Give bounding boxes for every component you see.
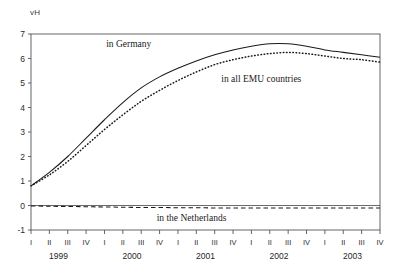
x-tick-label: II [121, 238, 125, 247]
x-axis-year-label: 2002 [270, 251, 289, 261]
x-tick-label: I [103, 238, 105, 247]
x-axis-year-label: 1999 [49, 251, 68, 261]
x-tick-label: III [285, 238, 291, 247]
x-tick-label: III [138, 238, 144, 247]
x-axis-year-group: 19992000200120022003 [49, 251, 362, 261]
y-tick-label: -1 [17, 225, 25, 235]
series-line-in-the-netherlands [31, 206, 380, 208]
x-axis-tick-group: IIIIIIIVIIIIIIIVIIIIIIIVIIIIIIIVIIIIIIIV [30, 230, 384, 247]
x-tick-label: III [358, 238, 364, 247]
x-tick-label: IV [83, 238, 90, 247]
x-tick-label: II [47, 238, 51, 247]
x-axis-year-label: 2003 [343, 251, 362, 261]
chart-container: vH -101234567 IIIIIIIVIIIIIIIVIIIIIIIVII… [0, 0, 407, 277]
series-annotation: in all EMU countries [221, 74, 301, 84]
series-line-in-all-emu-countries [31, 52, 380, 186]
series-annotation-group: in Germanyin all EMU countriesin the Net… [106, 39, 301, 222]
x-tick-label: III [65, 238, 71, 247]
y-tick-label: 3 [20, 127, 25, 137]
x-tick-label: II [341, 238, 345, 247]
plot-border [31, 34, 380, 230]
y-tick-label: 7 [20, 29, 25, 39]
y-axis-tick-group: -101234567 [17, 29, 31, 235]
x-tick-label: IV [376, 238, 383, 247]
y-tick-label: 4 [20, 103, 25, 113]
x-tick-label: I [30, 238, 32, 247]
x-tick-label: II [194, 238, 198, 247]
series-annotation: in Germany [106, 39, 151, 49]
x-tick-label: IV [156, 238, 163, 247]
series-line-in-germany [31, 43, 380, 185]
x-tick-label: IV [303, 238, 310, 247]
x-tick-label: I [250, 238, 252, 247]
y-tick-label: 5 [20, 78, 25, 88]
x-tick-label: III [212, 238, 218, 247]
series-group [31, 43, 380, 207]
y-tick-label: 0 [20, 201, 25, 211]
y-tick-label: 2 [20, 152, 25, 162]
chart-plot-area: -101234567 IIIIIIIVIIIIIIIVIIIIIIIVIIIII… [0, 0, 407, 277]
x-axis-year-label: 2001 [196, 251, 215, 261]
plot-frame [31, 34, 380, 230]
x-tick-label: I [177, 238, 179, 247]
series-annotation: in the Netherlands [157, 213, 227, 223]
x-axis-year-label: 2000 [123, 251, 142, 261]
x-tick-label: II [268, 238, 272, 247]
x-tick-label: IV [230, 238, 237, 247]
y-tick-label: 6 [20, 54, 25, 64]
y-tick-label: 1 [20, 176, 25, 186]
x-tick-label: I [324, 238, 326, 247]
